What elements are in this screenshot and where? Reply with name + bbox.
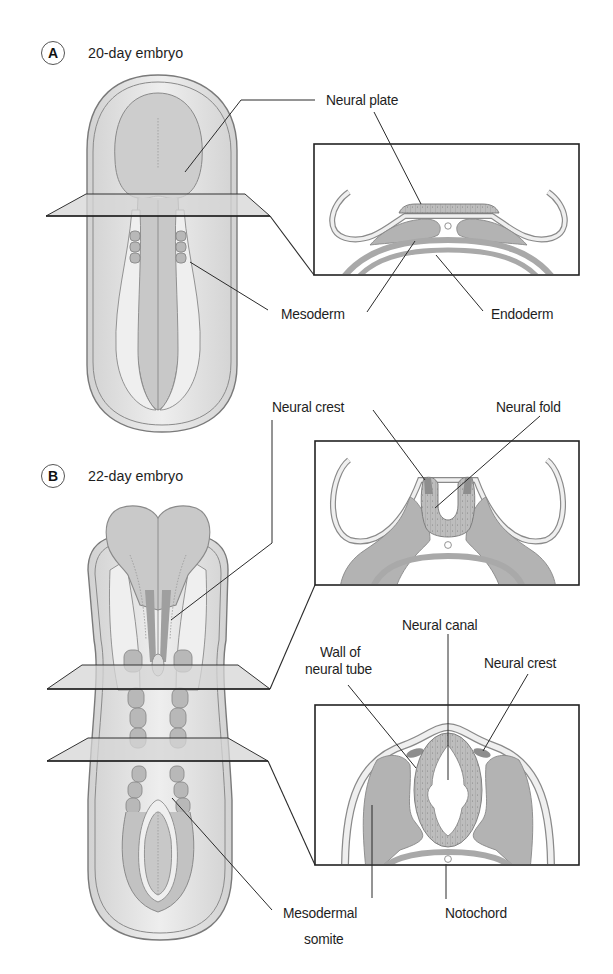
- label-mesodermal-somite-line1: Mesodermal: [283, 904, 357, 921]
- cross-section-a: [314, 144, 579, 285]
- cross-section-b1: [315, 441, 579, 590]
- label-endoderm: Endoderm: [491, 305, 553, 322]
- embryo-b-dorsal-view: [47, 506, 270, 940]
- label-neural-crest-tube-section: Neural crest: [484, 654, 556, 671]
- panel-a-badge: A: [41, 41, 65, 65]
- diagram-graphics: [0, 0, 613, 974]
- label-mesoderm: Mesoderm: [281, 305, 345, 322]
- embryo-a-dorsal-view: [46, 75, 270, 432]
- cross-section-b2: [315, 705, 579, 875]
- panel-a-title: 20-day embryo: [88, 44, 183, 62]
- label-neural-crest-fold-section: Neural crest: [272, 398, 344, 415]
- label-mesodermal-somite-line2: somite: [304, 930, 344, 947]
- panel-b-badge: B: [41, 464, 65, 488]
- panel-b-title: 22-day embryo: [88, 467, 183, 485]
- label-notochord: Notochord: [445, 904, 507, 921]
- label-wall-of-neural-tube-line1: Wall of: [320, 643, 360, 660]
- label-neural-plate: Neural plate: [326, 91, 398, 108]
- neural-tube-development-diagram: A 20-day embryo Neural plate Mesoderm En…: [0, 0, 613, 974]
- label-wall-of-neural-tube-line2: neural tube: [305, 660, 372, 677]
- label-neural-fold: Neural fold: [496, 398, 561, 415]
- label-neural-canal: Neural canal: [402, 616, 477, 633]
